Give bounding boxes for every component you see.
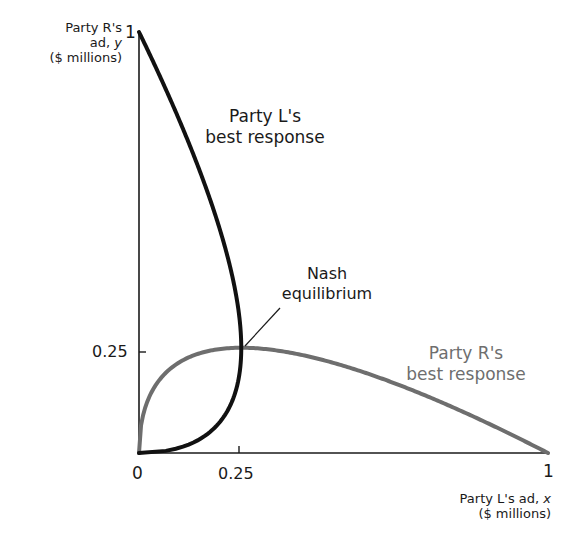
nash-equilibrium-label: Nash equilibrium bbox=[272, 264, 382, 304]
x-tick-label-025: 0.25 bbox=[218, 465, 254, 482]
party-l-curve-label-line1: Party L's bbox=[205, 106, 325, 127]
nash-equilibrium-label-line1: Nash bbox=[272, 264, 382, 284]
party-r-curve-label-line2: best response bbox=[396, 364, 536, 385]
x-axis-label-line2: ($ millions) bbox=[420, 506, 551, 521]
y-axis-label-line2: ad, y bbox=[14, 35, 122, 50]
y-axis-label-line3: ($ millions) bbox=[14, 50, 122, 65]
x-axis-label-prefix: Party L's ad, bbox=[460, 491, 544, 506]
x-axis-label: Party L's ad, x ($ millions) bbox=[420, 491, 551, 521]
party-l-curve-label: Party L's best response bbox=[205, 106, 325, 148]
x-tick-label-0: 0 bbox=[132, 465, 143, 482]
nash-equilibrium-pointer bbox=[245, 308, 280, 346]
y-axis-label-prefix: ad, bbox=[90, 35, 114, 50]
party-l-curve-label-line2: best response bbox=[205, 127, 325, 148]
y-axis-label: Party R's ad, y ($ millions) bbox=[14, 20, 122, 65]
party-r-curve-label-line1: Party R's bbox=[396, 343, 536, 364]
y-axis-label-line1: Party R's bbox=[14, 20, 122, 35]
y-tick-label-025: 0.25 bbox=[92, 343, 128, 360]
party-r-curve-label: Party R's best response bbox=[396, 343, 536, 385]
nash-equilibrium-label-line2: equilibrium bbox=[272, 284, 382, 304]
x-axis-label-line1: Party L's ad, x bbox=[420, 491, 551, 506]
y-axis-variable: y bbox=[114, 35, 122, 50]
x-tick-label-1: 1 bbox=[543, 463, 554, 480]
x-axis-variable: x bbox=[543, 491, 551, 506]
y-tick-label-1: 1 bbox=[125, 24, 136, 41]
